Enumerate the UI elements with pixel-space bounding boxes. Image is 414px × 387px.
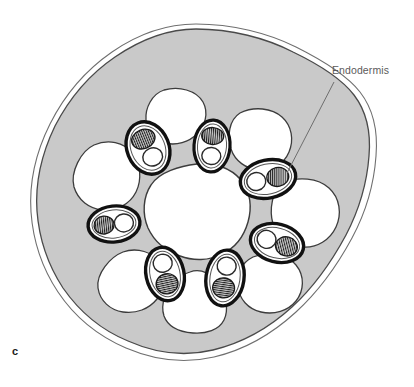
phloem-strand [201, 147, 221, 165]
panel-label: c [12, 345, 18, 357]
stem-cross-section-diagram [0, 0, 414, 387]
endodermis-label: Endodermis [332, 64, 389, 76]
central-cavity-group [144, 164, 250, 260]
central-pith-cavity [144, 164, 250, 260]
figure-container: Endodermis c [0, 0, 414, 387]
air-lacuna [238, 254, 302, 313]
